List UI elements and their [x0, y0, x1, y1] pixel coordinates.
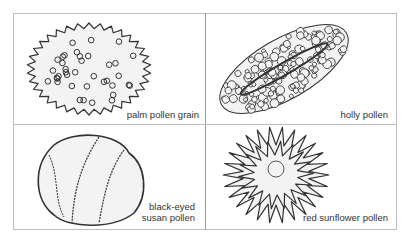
panel-holly-pollen: holly pollen: [206, 14, 396, 124]
palm-pollen-illustration: [14, 14, 205, 124]
susan-outline: [38, 135, 143, 225]
palm-outline: [27, 23, 150, 115]
label-line-1: black-eyed: [142, 201, 195, 212]
holly-pollen-label: holly pollen: [340, 109, 388, 120]
holly-body: [207, 14, 362, 124]
palm-pollen-label: palm pollen grain: [127, 109, 199, 120]
black-eyed-susan-pollen-label: black-eyed susan pollen: [142, 201, 195, 223]
panel-red-sunflower-pollen: red sunflower pollen: [206, 125, 396, 229]
panel-palm-pollen: palm pollen grain: [14, 14, 205, 124]
holly-pollen-illustration: [206, 14, 396, 124]
label-line-2: susan pollen: [142, 212, 195, 223]
red-sunflower-pollen-label: red sunflower pollen: [303, 212, 388, 223]
panel-black-eyed-susan-pollen: black-eyed susan pollen: [14, 125, 205, 229]
